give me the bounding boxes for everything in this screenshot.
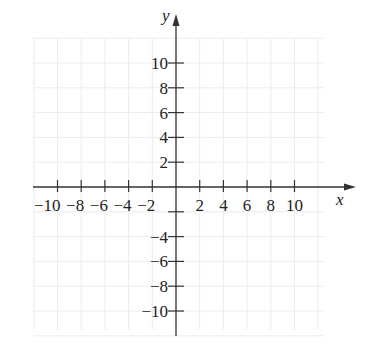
x-tick-label: −10	[34, 196, 61, 215]
y-tick-label: 2	[160, 153, 169, 172]
x-tick-label: −4	[114, 196, 133, 215]
y-tick-label: −6	[150, 252, 168, 271]
y-tick-label: −8	[150, 277, 168, 296]
y-tick-label: 4	[160, 128, 169, 147]
x-tick-label: 8	[267, 196, 276, 215]
coordinate-plane: −10−8−6−4−2246810 108642−4−6−8−10 x y	[0, 0, 365, 352]
x-tick-label: −6	[90, 196, 108, 215]
y-tick-label: −10	[141, 302, 168, 321]
x-tick-label: 10	[286, 196, 303, 215]
x-tick-label: −8	[66, 196, 84, 215]
y-tick-label: 6	[160, 104, 169, 123]
y-axis-arrow-icon	[173, 14, 180, 26]
y-tick-label: −4	[150, 228, 169, 247]
x-axis-label: x	[335, 190, 344, 209]
x-axis-arrow-icon	[344, 184, 356, 191]
x-ticks: −10−8−6−4−2246810	[34, 180, 303, 215]
y-axis-label: y	[160, 6, 170, 25]
x-tick-label: 2	[195, 196, 204, 215]
y-tick-label: 10	[151, 54, 168, 73]
y-tick-label: 8	[160, 79, 169, 98]
x-tick-label: −2	[137, 196, 155, 215]
x-tick-label: 6	[243, 196, 252, 215]
x-tick-label: 4	[219, 196, 228, 215]
